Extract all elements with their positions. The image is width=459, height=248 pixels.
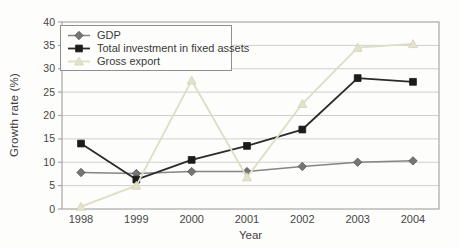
legend-marker bbox=[76, 45, 83, 52]
series-marker-investment bbox=[410, 78, 417, 85]
series-marker-investment bbox=[244, 142, 251, 149]
y-tick-label: 30 bbox=[43, 62, 55, 74]
legend-item-investment: Total investment in fixed assets bbox=[67, 42, 225, 55]
x-tick-label: 2001 bbox=[235, 213, 259, 225]
x-tick-label: 2000 bbox=[179, 213, 203, 225]
y-tick-label: 0 bbox=[49, 203, 55, 215]
series-marker-gdp bbox=[298, 162, 306, 170]
y-tick-label: 40 bbox=[43, 16, 55, 28]
y-tick-label: 35 bbox=[43, 39, 55, 51]
y-tick-label: 5 bbox=[49, 179, 55, 191]
gdp-line-marker-icon bbox=[67, 30, 91, 41]
legend-item-gdp: GDP bbox=[67, 29, 225, 42]
series-marker-gdp bbox=[353, 158, 361, 166]
x-tick-label: 1998 bbox=[69, 213, 93, 225]
x-tick-label: 2002 bbox=[290, 213, 314, 225]
legend-label-investment: Total investment in fixed assets bbox=[97, 42, 249, 55]
legend-marker bbox=[75, 31, 83, 39]
series-marker-gdp bbox=[409, 157, 417, 165]
series-marker-investment bbox=[354, 75, 361, 82]
legend-label-export: Gross export bbox=[97, 55, 160, 68]
legend: GDP Total investment in fixed assets Gro… bbox=[60, 25, 232, 71]
export-line-marker-icon bbox=[67, 56, 91, 67]
y-tick-label: 10 bbox=[43, 156, 55, 168]
x-axis-label: Year bbox=[62, 229, 439, 241]
series-marker-gdp bbox=[77, 168, 85, 176]
y-tick-label: 15 bbox=[43, 132, 55, 144]
series-marker-gdp bbox=[187, 167, 195, 175]
series-line-investment bbox=[81, 78, 413, 179]
series-marker-investment bbox=[299, 126, 306, 133]
growth-rate-chart-figure: 0510152025303540199819992000200120022003… bbox=[0, 0, 459, 248]
y-axis-label: Growth rate (%) bbox=[8, 55, 20, 175]
y-tick-label: 20 bbox=[43, 109, 55, 121]
series-marker-investment bbox=[188, 157, 195, 164]
y-tick-label: 25 bbox=[43, 86, 55, 98]
legend-item-export: Gross export bbox=[67, 55, 225, 68]
x-tick-label: 2003 bbox=[345, 213, 369, 225]
series-marker-investment bbox=[78, 140, 85, 147]
x-tick-label: 1999 bbox=[124, 213, 148, 225]
legend-label-gdp: GDP bbox=[97, 29, 121, 42]
investment-line-marker-icon bbox=[67, 43, 91, 54]
x-tick-label: 2004 bbox=[401, 213, 425, 225]
series-marker-export bbox=[187, 76, 196, 84]
